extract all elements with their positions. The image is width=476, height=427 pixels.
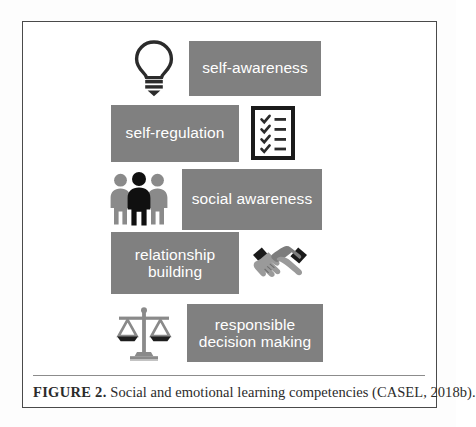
competency-bar: relationship building: [111, 232, 239, 294]
lightbulb-icon: [131, 39, 177, 97]
figure-caption-label: FIGURE 2.: [33, 384, 107, 400]
figure-caption-text: Social and emotional learning competenci…: [107, 384, 476, 400]
competency-row-relationship-building: relationship building: [111, 232, 309, 294]
three-people-icon: [108, 172, 170, 226]
competency-label: responsible decision making: [199, 316, 312, 351]
checklist-icon: [251, 106, 295, 160]
figure-caption: FIGURE 2. Social and emotional learning …: [33, 384, 428, 401]
competency-label: self-awareness: [202, 59, 308, 76]
competency-label: social awareness: [192, 190, 313, 207]
competency-bar: responsible decision making: [187, 304, 323, 362]
competency-bar: social awareness: [182, 169, 322, 230]
competency-label: relationship building: [135, 246, 215, 281]
competency-row-social-awareness: social awareness: [108, 168, 322, 230]
competency-row-responsible-decision-making: responsible decision making: [113, 302, 323, 364]
competency-bar: self-regulation: [111, 105, 239, 162]
sel-competencies-diagram: self-awareness self-regulation: [23, 22, 436, 372]
competency-row-self-regulation: self-regulation: [111, 102, 295, 164]
competency-row-self-awareness: self-awareness: [131, 37, 321, 99]
balance-scales-icon: [113, 304, 175, 362]
competency-bar: self-awareness: [189, 41, 321, 96]
caption-divider: [33, 375, 425, 376]
competency-label: self-regulation: [126, 124, 225, 141]
handshake-icon: [251, 242, 309, 284]
figure-frame: self-awareness self-regulation: [22, 21, 437, 408]
